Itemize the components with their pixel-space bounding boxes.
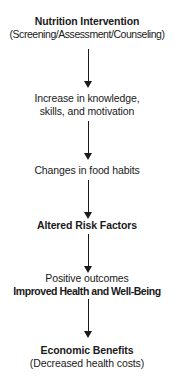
node-altered-risk-factors: Altered Risk Factors	[0, 219, 174, 232]
node-nutrition-intervention: Nutrition Intervention (Screening/Assess…	[0, 15, 174, 41]
arrow-2	[82, 121, 95, 160]
arrow-5-head	[84, 331, 92, 338]
arrow-1-shaft	[88, 49, 89, 82]
arrow-2-shaft	[88, 121, 89, 154]
node-improved-health-line1: Positive outcomes	[2, 272, 172, 285]
arrow-5-shaft	[88, 299, 89, 332]
arrow-3-head	[84, 212, 92, 219]
arrow-4-shaft	[88, 234, 89, 267]
node-altered-risk-factors-line1: Altered Risk Factors	[2, 219, 172, 232]
node-economic-benefits: Economic Benefits (Decreased health cost…	[0, 344, 174, 370]
arrow-1	[82, 49, 95, 88]
node-nutrition-intervention-line2: (Screening/Assessment/Counseling)	[2, 28, 172, 41]
flowchart-diagram: Nutrition Intervention (Screening/Assess…	[0, 0, 174, 384]
arrow-5	[82, 299, 95, 338]
node-improved-health-line2: Improved Health and Well-Being	[2, 285, 172, 298]
node-improved-health: Positive outcomes Improved Health and We…	[0, 272, 174, 298]
node-economic-benefits-line1: Economic Benefits	[2, 344, 172, 357]
arrow-2-head	[84, 153, 92, 160]
node-economic-benefits-line2: (Decreased health costs)	[2, 357, 172, 370]
node-increase-knowledge-line2: skills, and motivation	[2, 105, 172, 118]
node-nutrition-intervention-line1: Nutrition Intervention	[2, 15, 172, 28]
node-changes-food-habits: Changes in food habits	[0, 164, 174, 177]
node-increase-knowledge-line1: Increase in knowledge,	[2, 92, 172, 105]
node-changes-food-habits-line1: Changes in food habits	[2, 164, 172, 177]
arrow-4	[82, 234, 95, 273]
arrow-3	[82, 180, 95, 219]
arrow-3-shaft	[88, 180, 89, 213]
arrow-1-head	[84, 81, 92, 88]
node-increase-knowledge: Increase in knowledge, skills, and motiv…	[0, 92, 174, 118]
